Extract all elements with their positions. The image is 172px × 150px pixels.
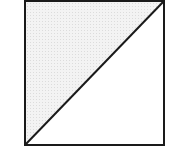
diagram-canvas	[0, 0, 172, 150]
